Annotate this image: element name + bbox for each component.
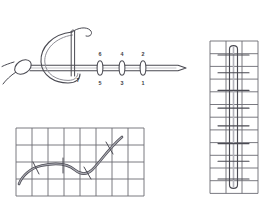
stitch-hole-loop-3 [140,61,146,75]
stitch-label-lower-2: 3 [121,80,124,86]
needle-shaft [30,65,186,71]
stitch-hole-loop-2 [119,61,125,75]
stitch-label-upper-1: 6 [99,51,102,57]
stitch-label-upper-3: 2 [142,51,145,57]
couched-curve-core [19,137,122,184]
couched-curve-outline [19,137,122,184]
figure-grid-curve [12,118,152,198]
thread-tail-upper [2,62,14,67]
diagram-page: 6 4 2 5 3 1 7 [0,0,267,209]
thread-tail [3,72,16,84]
stitch-label-lower-3: 1 [142,80,145,86]
thread-knot [12,57,34,78]
canvas-grid [16,128,144,196]
figure-needle-pass: 6 4 2 5 3 1 7 [0,10,200,90]
stitch-hole-loop-1 [97,61,103,75]
stitch-label-upper-2: 4 [121,51,124,57]
stitch-label-lower-1: 5 [99,80,102,86]
loop-label-7: 7 [77,77,80,83]
figure-grid-loop [200,33,267,201]
